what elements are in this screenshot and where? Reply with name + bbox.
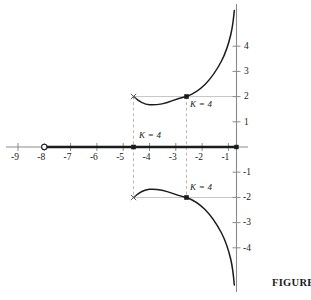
x-tick-label-neg5: -5 — [116, 152, 124, 162]
y-tick-label-3: 3 — [244, 66, 249, 76]
marked-point-axis-neg4-0 — [131, 145, 136, 150]
x-tick-label-neg9: -9 — [11, 152, 19, 162]
x-tick-label-neg1: -1 — [221, 152, 229, 162]
k-label-axis-branch: K = 4 — [139, 130, 161, 140]
x-tick-label-neg7: -7 — [64, 152, 72, 162]
y-tick-label-neg4: -4 — [243, 243, 251, 253]
k-label-upper-branch: K = 4 — [190, 99, 212, 109]
y-tick-label-1: 1 — [244, 117, 249, 127]
x-tick-label-neg2: -2 — [195, 152, 203, 162]
y-tick-label-neg3: -3 — [243, 217, 251, 227]
k-label-lower-branch: K = 4 — [190, 182, 212, 192]
graph-canvas: .axisline{stroke:#8a8a8a;stroke-width:1.… — [0, 0, 311, 300]
x-tick-label-neg8: -8 — [37, 152, 45, 162]
figure-caption: FIGURE — [272, 277, 311, 288]
lower-branch-curve — [134, 189, 235, 285]
marked-point-upper-neg2-2 — [184, 94, 189, 99]
x-tick-label-neg4: -4 — [143, 152, 151, 162]
y-tick-label-4: 4 — [244, 41, 249, 51]
marked-point-lower-neg2-neg2 — [184, 195, 189, 200]
x-tick-label-neg3: -3 — [169, 152, 177, 162]
y-tick-label-neg1: -1 — [243, 167, 251, 177]
upper-branch-curve — [134, 11, 235, 105]
open-circle-at-neg8 — [42, 144, 47, 149]
y-tick-label-2: 2 — [244, 91, 249, 101]
marked-point-origin — [234, 145, 238, 149]
x-tick-label-neg6: -6 — [90, 152, 98, 162]
figure-container: .axisline{stroke:#8a8a8a;stroke-width:1.… — [0, 0, 311, 300]
y-tick-label-neg2: -2 — [243, 192, 251, 202]
